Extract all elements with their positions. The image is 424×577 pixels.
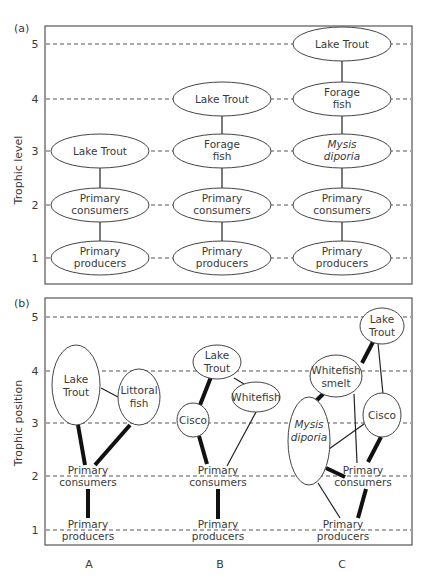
link-b-A-trout-littoral bbox=[101, 388, 118, 397]
link-b-B-trout-whitefish bbox=[234, 378, 244, 384]
link-b-C-consumers-producers bbox=[358, 489, 366, 518]
x-label-a: A bbox=[85, 558, 93, 571]
link-b-C-cisco-mysis bbox=[329, 424, 364, 449]
svg-text:fish: fish bbox=[130, 397, 149, 409]
node-b-A-primary-consumers: Primary consumers bbox=[59, 464, 116, 488]
tick-b-5: 5 bbox=[32, 311, 39, 324]
link-b-A-littoral-consumers bbox=[95, 425, 130, 465]
link-b-C-cisco-consumers bbox=[368, 437, 381, 462]
svg-text:consumers: consumers bbox=[189, 476, 246, 488]
node-b-C-cisco: Cisco bbox=[363, 393, 401, 437]
node-a-C-lake-trout: Lake Trout bbox=[293, 27, 391, 61]
svg-text:Lake: Lake bbox=[205, 349, 229, 361]
node-a-B-forage-fish: Forage fish bbox=[173, 134, 271, 168]
node-b-A-lake-trout: Lake Trout bbox=[52, 345, 100, 425]
panel-a: (a) 5 4 3 2 1 Trophic level Lake Trout P… bbox=[12, 22, 412, 284]
food-web-figure: (a) 5 4 3 2 1 Trophic level Lake Trout P… bbox=[0, 0, 424, 577]
tick-4: 4 bbox=[32, 93, 39, 106]
svg-text:Trout: Trout bbox=[203, 362, 230, 374]
svg-text:diporia: diporia bbox=[324, 150, 360, 162]
svg-text:Primary: Primary bbox=[323, 518, 364, 530]
tick-5: 5 bbox=[32, 38, 39, 51]
svg-text:producers: producers bbox=[196, 257, 249, 269]
tick-b-1: 1 bbox=[32, 524, 39, 537]
svg-text:Lake Trout: Lake Trout bbox=[195, 93, 249, 105]
panel-b-label: (b) bbox=[14, 297, 30, 310]
node-a-C-mysis-diporia: Mysis diporia bbox=[293, 134, 391, 168]
panel-b: (b) 5 4 3 2 1 Trophic position Lake Trou… bbox=[12, 297, 412, 545]
svg-text:Trout: Trout bbox=[62, 386, 89, 398]
svg-text:Primary: Primary bbox=[68, 518, 109, 530]
svg-text:producers: producers bbox=[192, 530, 245, 542]
link-b-C-mysis-producers bbox=[318, 483, 340, 518]
node-a-A-primary-producers: Primary producers bbox=[51, 241, 149, 275]
node-a-C-primary-consumers: Primary consumers bbox=[293, 188, 391, 222]
svg-text:Primary: Primary bbox=[322, 245, 363, 257]
link-b-B-cisco-consumers bbox=[199, 436, 207, 464]
y-axis-label-a: Trophic level bbox=[12, 136, 25, 206]
link-b-A-trout-consumers bbox=[78, 425, 85, 465]
svg-text:producers: producers bbox=[316, 257, 369, 269]
svg-text:Lake Trout: Lake Trout bbox=[315, 38, 369, 50]
node-b-B-primary-producers: Primary producers bbox=[192, 518, 245, 542]
svg-text:Forage: Forage bbox=[324, 86, 360, 98]
svg-text:Primary: Primary bbox=[202, 245, 243, 257]
node-b-B-whitefish: Whitefish bbox=[231, 382, 280, 412]
svg-text:Cisco: Cisco bbox=[179, 414, 207, 426]
svg-text:Primary: Primary bbox=[198, 464, 239, 476]
svg-text:Lake: Lake bbox=[64, 373, 88, 385]
tick-b-2: 2 bbox=[32, 470, 39, 483]
svg-text:fish: fish bbox=[333, 98, 352, 110]
node-b-C-primary-consumers: Primary consumers bbox=[334, 464, 391, 488]
link-b-C-trout-smelt bbox=[362, 342, 373, 363]
node-b-C-whitefish-smelt: Whitefish smelt bbox=[310, 355, 362, 397]
node-b-A-littoral-fish: Littoral fish bbox=[118, 369, 160, 425]
svg-text:consumers: consumers bbox=[59, 476, 116, 488]
panel-b-frame bbox=[45, 298, 412, 545]
tick-b-3: 3 bbox=[32, 417, 39, 430]
node-b-C-primary-producers: Primary producers bbox=[317, 518, 370, 542]
svg-text:Whitefish: Whitefish bbox=[231, 391, 280, 403]
tick-1: 1 bbox=[32, 252, 39, 265]
node-a-C-forage-fish: Forage fish bbox=[293, 82, 391, 116]
svg-text:Lake: Lake bbox=[370, 313, 394, 325]
svg-text:Primary: Primary bbox=[68, 464, 109, 476]
svg-text:consumers: consumers bbox=[71, 204, 128, 216]
link-b-C-smelt-consumers bbox=[354, 394, 357, 463]
link-b-C-trout-cisco bbox=[378, 343, 383, 394]
y-axis-label-b: Trophic position bbox=[12, 380, 25, 467]
svg-text:diporia: diporia bbox=[291, 431, 327, 443]
x-label-c: C bbox=[338, 558, 346, 571]
svg-text:Lake Trout: Lake Trout bbox=[73, 145, 127, 157]
node-b-C-lake-trout: Lake Trout bbox=[360, 308, 404, 344]
node-b-B-primary-consumers: Primary consumers bbox=[189, 464, 246, 488]
svg-text:Forage: Forage bbox=[204, 138, 240, 150]
panel-a-label: (a) bbox=[14, 22, 29, 35]
node-b-B-cisco: Cisco bbox=[177, 403, 209, 437]
node-a-A-lake-trout: Lake Trout bbox=[51, 134, 149, 168]
tick-2: 2 bbox=[32, 199, 39, 212]
svg-text:producers: producers bbox=[317, 530, 370, 542]
link-b-B-whitefish-consumers bbox=[227, 412, 256, 466]
tick-3: 3 bbox=[32, 145, 39, 158]
svg-text:Trout: Trout bbox=[368, 326, 395, 338]
svg-text:smelt: smelt bbox=[321, 377, 350, 389]
node-a-B-primary-producers: Primary producers bbox=[173, 241, 271, 275]
tick-b-4: 4 bbox=[32, 365, 39, 378]
svg-text:fish: fish bbox=[213, 150, 232, 162]
svg-text:producers: producers bbox=[74, 257, 127, 269]
svg-text:Primary: Primary bbox=[202, 192, 243, 204]
svg-text:Mysis: Mysis bbox=[294, 418, 324, 430]
svg-text:consumers: consumers bbox=[334, 476, 391, 488]
svg-text:Whitefish: Whitefish bbox=[311, 364, 360, 376]
link-b-B-trout-cisco bbox=[200, 377, 211, 405]
node-b-C-mysis-diporia: Mysis diporia bbox=[288, 397, 330, 485]
x-label-b: B bbox=[216, 558, 224, 571]
node-a-A-primary-consumers: Primary consumers bbox=[51, 188, 149, 222]
node-a-C-primary-producers: Primary producers bbox=[293, 241, 391, 275]
svg-text:Primary: Primary bbox=[80, 245, 121, 257]
svg-text:consumers: consumers bbox=[313, 204, 370, 216]
svg-text:producers: producers bbox=[62, 530, 115, 542]
svg-text:Primary: Primary bbox=[343, 464, 384, 476]
svg-text:Primary: Primary bbox=[80, 192, 121, 204]
